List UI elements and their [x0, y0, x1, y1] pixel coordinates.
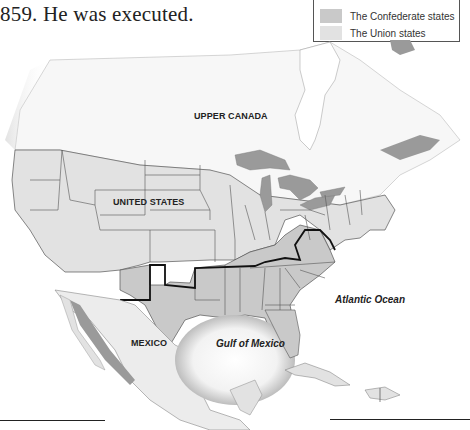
- caption-text: 859. He was executed.: [0, 2, 194, 27]
- label-gulf-of-mexico: Gulf of Mexico: [216, 338, 285, 349]
- legend-label-confederate: The Confederate states: [350, 11, 455, 22]
- label-united-states: UNITED STATES: [113, 197, 184, 207]
- union-swatch: [320, 26, 342, 40]
- civil-war-map: [0, 40, 470, 430]
- legend-item-confederate: The Confederate states: [320, 9, 455, 23]
- label-upper-canada: UPPER CANADA: [194, 111, 268, 121]
- bottom-rule-right: [330, 419, 470, 420]
- legend-item-union: The Union states: [320, 26, 426, 40]
- map-legend: The Confederate states The Union states: [313, 0, 460, 42]
- cuba: [285, 363, 350, 386]
- confederate-swatch: [320, 9, 342, 23]
- legend-label-union: The Union states: [350, 28, 426, 39]
- label-mexico: MEXICO: [131, 338, 167, 348]
- hispaniola: [365, 387, 400, 400]
- label-atlantic-ocean: Atlantic Ocean: [335, 294, 405, 305]
- bottom-rule-left: [0, 420, 105, 421]
